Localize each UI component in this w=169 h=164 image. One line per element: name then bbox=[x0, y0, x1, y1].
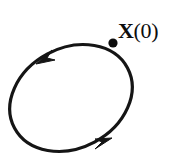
time-argument: (0) bbox=[134, 18, 159, 43]
initial-condition-label: X(0) bbox=[118, 20, 158, 42]
initial-condition-point bbox=[108, 38, 117, 47]
orbit-diagram: X(0) bbox=[0, 0, 169, 164]
vector-symbol-x: X bbox=[118, 18, 134, 43]
